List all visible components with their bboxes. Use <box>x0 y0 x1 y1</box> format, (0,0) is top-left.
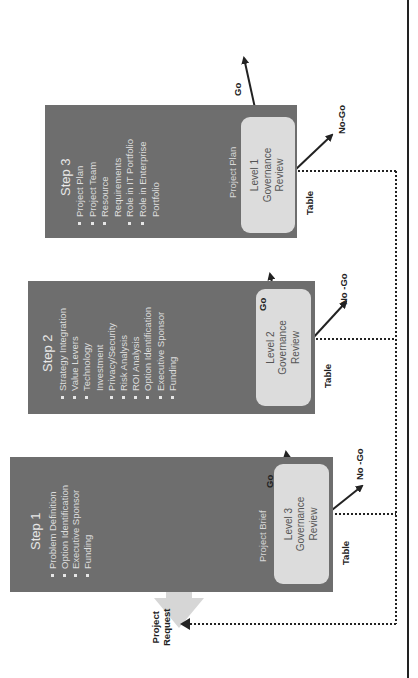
go-label-2: Go <box>257 298 268 311</box>
level-3-review[interactable]: Level 3 Governance Review <box>274 464 329 584</box>
list-item: Option Identification <box>59 485 71 578</box>
step-3-list: Project Plan Project Team Resource Requi… <box>74 139 162 226</box>
list-item: Strategy Integration <box>57 307 69 400</box>
review-line: Governance <box>262 117 275 233</box>
step-2-title: Step 2 <box>40 334 55 372</box>
project-request-label: Project Request <box>150 609 172 646</box>
review-line: Level 1 <box>249 117 262 233</box>
review-line: Governance <box>295 464 308 584</box>
step-1-box: Step 1 Problem Definition Option Identif… <box>10 457 333 592</box>
list-item: ROI Analysis <box>130 307 142 400</box>
list-item: Executive Sponsor <box>70 485 82 578</box>
list-item: Privacy/Security <box>106 307 118 400</box>
list-item: Executive Sponsor <box>155 307 167 400</box>
level-1-review[interactable]: Level 1 Governance Review <box>241 117 295 233</box>
step-2-list: Strategy Integration Value Levers Techno… <box>57 307 179 400</box>
governance-process-diagram: Step 1 Problem Definition Option Identif… <box>0 0 418 678</box>
project-brief-label: Project Brief <box>257 510 268 562</box>
list-item: Funding <box>82 485 94 578</box>
list-item: Project Team <box>87 139 100 226</box>
nogo-label-3: No-Go <box>336 105 347 134</box>
nogo-label-2: No -Go <box>338 273 349 305</box>
list-item: Role in Enterprise <box>137 139 150 226</box>
step-1-list: Problem Definition Option Identification… <box>47 485 93 578</box>
nogo-arrow-2 <box>312 302 346 339</box>
list-item: Risk Analysis <box>118 307 130 400</box>
table-label-3: Table <box>304 191 315 215</box>
review-line: Review <box>290 289 303 406</box>
nogo-arrow-3 <box>294 135 332 171</box>
go-label-3: Go <box>232 83 243 96</box>
step-3-box: Step 3 Project Plan Project Team Resourc… <box>45 105 297 238</box>
list-item: Option Identification <box>142 307 154 400</box>
list-item: Role in IT Portfolio <box>124 139 137 226</box>
table-label-1: Table <box>340 541 351 565</box>
table-label-2: Table <box>322 364 333 388</box>
step-3-title: Step 3 <box>58 158 73 196</box>
step-2-box: Step 2 Strategy Integration Value Levers… <box>28 281 315 414</box>
list-item: Technology <box>81 307 93 400</box>
list-item: Project Plan <box>74 139 87 226</box>
list-item: Portfolio <box>150 139 163 226</box>
project-request-line1: Project <box>150 609 161 646</box>
nogo-label-1: No -Go <box>354 448 365 480</box>
list-item: Resource <box>99 139 112 226</box>
step-1-title: Step 1 <box>28 512 43 550</box>
list-item: Requirements <box>112 139 125 226</box>
list-item: Investment <box>94 307 106 400</box>
project-request-line2: Request <box>161 609 172 646</box>
go-label-1: Go <box>264 475 275 488</box>
list-item: Value Levers <box>69 307 81 400</box>
project-plan-label: Project Plan <box>227 147 238 198</box>
review-line: Governance <box>277 289 290 406</box>
list-item: Funding <box>167 307 179 400</box>
review-line: Review <box>308 464 321 584</box>
review-line: Level 3 <box>283 464 296 584</box>
list-item: Problem Definition <box>47 485 59 578</box>
review-line: Review <box>274 117 287 233</box>
